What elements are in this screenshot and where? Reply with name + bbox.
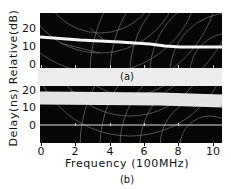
xtick-8: 8 [168,146,188,157]
xtick-10: 10 [203,146,223,157]
xtick-6: 6 [134,146,154,157]
x-axis-label: Frequency (100MHz) [65,157,189,170]
panel-a-plot [40,13,222,68]
xtick-4: 4 [100,146,120,157]
xtick-2: 2 [65,146,85,157]
delay-band [40,98,222,101]
panel-a-trace-svg [40,13,222,68]
caption-b: (b) [120,174,134,185]
y-axis-label: Delay(ns) Relative(dB) [7,10,20,147]
xtick-0: 0 [31,146,51,157]
panel-b-trace-svg [40,86,222,143]
relative-level-trace [40,37,222,47]
panel-b-plot [40,86,222,143]
caption-a: (a) [120,71,134,82]
